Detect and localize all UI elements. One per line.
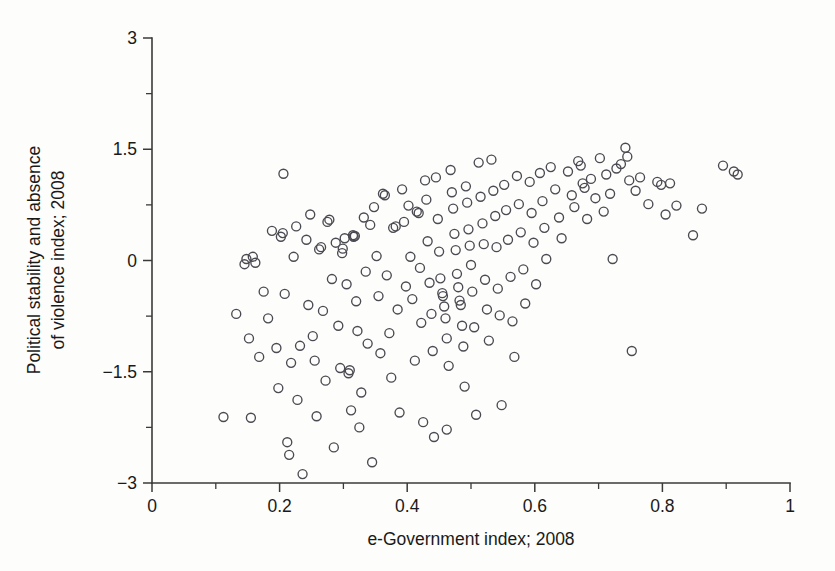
data-point <box>623 152 632 161</box>
data-point <box>355 423 364 432</box>
data-point <box>404 201 413 210</box>
data-point <box>551 185 560 194</box>
data-point <box>244 334 253 343</box>
data-point <box>450 229 459 238</box>
data-point <box>449 204 458 213</box>
data-point <box>296 341 305 350</box>
data-point <box>306 210 315 219</box>
data-point <box>458 321 467 330</box>
data-point <box>527 209 536 218</box>
data-point <box>493 284 502 293</box>
data-point <box>431 173 440 182</box>
data-point <box>461 182 470 191</box>
data-point <box>591 194 600 203</box>
y-tick-label: 3 <box>127 28 137 48</box>
data-point <box>491 212 500 221</box>
data-point <box>452 269 461 278</box>
data-point <box>251 258 260 267</box>
data-point <box>433 214 442 223</box>
data-point <box>719 161 728 170</box>
data-point <box>689 231 698 240</box>
data-point <box>538 197 547 206</box>
data-point <box>246 413 255 422</box>
data-point <box>608 255 617 264</box>
data-point <box>627 346 636 355</box>
data-point <box>334 321 343 330</box>
data-point <box>421 176 430 185</box>
x-axis-tick-labels: 00.20.40.60.81 <box>147 496 795 516</box>
data-point <box>372 252 381 261</box>
data-point <box>492 243 501 252</box>
data-point <box>465 241 474 250</box>
data-point <box>644 200 653 209</box>
data-point <box>535 168 544 177</box>
data-point <box>317 243 326 252</box>
data-point <box>423 237 432 246</box>
data-point <box>516 228 525 237</box>
y-axis-title-line-2: of violence index; 2008 <box>48 170 68 349</box>
data-point <box>451 246 460 255</box>
data-point <box>672 201 681 210</box>
x-tick-label: 1 <box>785 496 795 516</box>
data-point <box>318 306 327 315</box>
x-tick-label: 0.2 <box>267 496 291 516</box>
data-point <box>464 225 473 234</box>
data-point <box>502 206 511 215</box>
data-point <box>470 323 479 332</box>
data-point <box>636 173 645 182</box>
y-tick-label: 0 <box>127 251 137 271</box>
data-point <box>415 263 424 272</box>
data-point <box>427 309 436 318</box>
data-point <box>410 356 419 365</box>
data-point <box>487 155 496 164</box>
data-point <box>406 252 415 261</box>
x-tick-label: 0.8 <box>650 496 674 516</box>
data-point <box>321 376 330 385</box>
data-point <box>292 222 301 231</box>
data-point <box>401 282 410 291</box>
plot-canvas: 00.20.40.60.81 −3−1.501.53 e-Government … <box>0 0 835 571</box>
data-point <box>302 235 311 244</box>
data-point <box>393 305 402 314</box>
data-point <box>293 395 302 404</box>
data-point <box>352 297 361 306</box>
data-point <box>495 311 504 320</box>
data-point <box>387 373 396 382</box>
data-point <box>267 226 276 235</box>
data-point <box>280 289 289 298</box>
data-point <box>525 177 534 186</box>
data-point <box>567 191 576 200</box>
data-point <box>347 406 356 415</box>
data-point <box>287 358 296 367</box>
data-point <box>232 309 241 318</box>
data-point <box>621 143 630 152</box>
data-point <box>240 260 249 269</box>
data-point <box>400 217 409 226</box>
data-point <box>368 458 377 467</box>
data-point <box>264 314 273 323</box>
data-point <box>353 326 362 335</box>
data-point <box>444 361 453 370</box>
data-point <box>625 176 634 185</box>
data-point <box>557 234 566 243</box>
data-point <box>395 408 404 417</box>
data-point <box>497 401 506 410</box>
data-point <box>697 204 706 213</box>
data-point <box>363 339 372 348</box>
data-point <box>345 366 354 375</box>
y-tick-label: −1.5 <box>102 362 137 382</box>
data-point <box>666 179 675 188</box>
data-point <box>435 247 444 256</box>
data-point <box>489 186 498 195</box>
data-point <box>570 203 579 212</box>
data-point <box>259 287 268 296</box>
data-point <box>255 352 264 361</box>
data-point <box>419 418 428 427</box>
x-tick-label: 0.6 <box>523 496 547 516</box>
data-point <box>274 384 283 393</box>
data-point <box>506 272 515 281</box>
data-point-markers <box>219 143 742 478</box>
y-axis-ticks <box>143 38 152 483</box>
data-point <box>283 438 292 447</box>
data-point <box>442 425 451 434</box>
